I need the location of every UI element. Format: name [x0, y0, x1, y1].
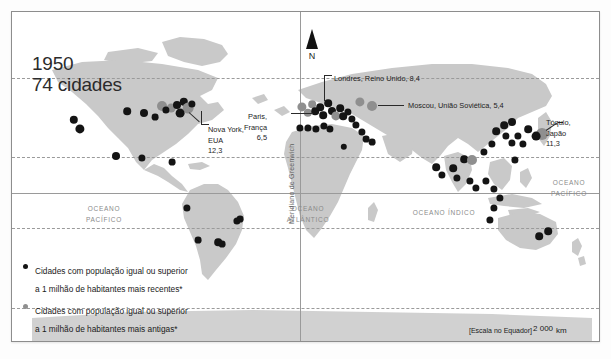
map-legend: Cidades com população igual ou superior … [21, 260, 251, 342]
legend-dot-recent-icon [23, 264, 28, 269]
scale-equator-note: [Escala no Equador] [469, 327, 532, 335]
callout-londres: Londres, Reino Unido, 8,4 [334, 74, 420, 85]
legend-label-antiga: Cidades com população igual ou superior … [35, 306, 188, 334]
legend-footnote: *Em relação ao ano representado [21, 340, 251, 342]
scale-unit: km [556, 327, 567, 335]
legend-dot-antiga-icon [23, 304, 28, 309]
scale-graphic: 2 000 [533, 317, 553, 335]
callout-toquio: Tóquio, Japão 11,3 [546, 118, 571, 150]
legend-item-antiga: Cidades com população igual ou superior … [21, 300, 251, 336]
callout-moscou: Moscou, União Soviética, 5,4 [408, 101, 504, 112]
legend-item-recent: Cidades com população igual ou superior … [21, 260, 251, 296]
legend-label-recent: Cidades com população igual ou superior … [35, 266, 188, 294]
callout-nova-york: Nova York, EUA 12,3 [208, 125, 244, 157]
callout-paris: Paris, França 6,5 [244, 112, 267, 144]
map-figure: Meridiano de Greenwich N 1950 74 cidades… [0, 0, 611, 359]
scale-bar-block: [Escala no Equador] 2 000 km [469, 317, 567, 335]
map-frame: Meridiano de Greenwich N 1950 74 cidades… [11, 11, 600, 342]
scale-value: 2 000 [533, 324, 553, 333]
